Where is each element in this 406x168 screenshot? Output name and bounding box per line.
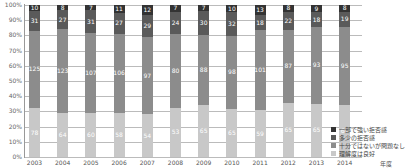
bar-segment: 123 [57,29,68,113]
bar-segment: 8 [57,5,68,10]
data-label: 98 [223,69,240,75]
bar-segment: 58 [114,113,125,157]
bar-segment: 98 [226,36,237,109]
data-label: 7 [82,5,99,11]
data-label: 60 [82,132,99,138]
data-label: 10 [26,5,43,11]
bar-segment: 18 [311,12,322,27]
data-label: 88 [195,67,212,73]
legend-item: 理解度は良好 [331,149,405,157]
data-label: 32 [223,21,240,27]
data-label: 97 [139,73,156,79]
bar-segment: 7 [198,5,209,11]
bar-segment: 8 [283,5,294,12]
bar-2008: 5380247 [170,5,181,157]
x-tick-label: 2013 [305,159,329,166]
bar-segment: 106 [114,34,125,114]
data-label: 10 [223,6,240,12]
bar-segment: 65 [311,104,322,157]
bar-segment: 7 [170,5,181,11]
bar-segment: 31 [85,10,96,33]
data-label: 64 [54,132,71,138]
data-label: 78 [26,130,43,136]
bar-segment: 59 [255,110,266,157]
bar-segment: 53 [170,108,181,157]
data-label: 30 [195,20,212,26]
data-label: 123 [54,68,71,74]
bar-segment: 11 [114,5,125,13]
bar-segment: 93 [311,27,322,103]
data-label: 12 [139,7,156,13]
bar-segment: 65 [198,105,209,157]
x-tick-label: 2003 [23,159,47,166]
bar-segment: 24 [170,12,181,34]
data-label: 9 [308,6,325,12]
bar-segment: 78 [29,108,40,157]
y-tick-label: 90% [0,17,22,23]
bar-segment: 10 [226,5,237,12]
y-tick-label: 50% [0,78,22,84]
bar-2004: 64123278 [57,5,68,157]
bar-2012: 6587228 [283,5,294,157]
bar-segment: 87 [283,30,294,103]
bar-segment: 65 [226,109,237,157]
data-label: 107 [82,70,99,76]
data-label: 95 [336,63,353,69]
bar-segment: 27 [114,13,125,33]
x-tick-label: 2014 [333,159,357,166]
bar-segment: 65 [283,103,294,157]
bar-segment: 97 [142,37,153,114]
legend-swatch [331,127,336,132]
data-label: 18 [308,17,325,23]
bar-segment: 101 [255,30,266,110]
data-label: 125 [26,66,43,72]
legend-swatch [331,151,336,156]
data-label: 18 [252,20,269,26]
legend-label: 理解度は良好 [339,149,375,158]
data-label: 7 [167,5,184,11]
data-label: 8 [336,5,353,11]
data-label: 65 [223,130,240,136]
bar-segment: 125 [29,31,40,109]
y-tick-label: 20% [0,124,22,130]
bar-2007: 54972912 [142,5,153,157]
data-label: 8 [280,5,297,11]
data-label: 65 [195,128,212,134]
x-tick-label: 2009 [192,159,216,166]
bar-segment: 7 [85,5,96,10]
data-label: 19 [336,16,353,22]
legend-swatch [331,143,336,148]
x-tick-label: 2010 [220,159,244,166]
y-tick-label: 10% [0,139,22,145]
bar-segment: 12 [142,5,153,15]
gridline [24,157,362,158]
data-label: 59 [252,131,269,137]
bar-segment: 32 [226,12,237,36]
bar-segment: 8 [339,5,350,12]
data-label: 11 [111,6,128,12]
bar-segment: 10 [29,5,40,11]
y-tick-label: 60% [0,63,22,69]
data-label: 24 [167,20,184,26]
bar-segment: 9 [311,5,322,12]
bar-2010: 65983210 [226,5,237,157]
data-label: 54 [139,133,156,139]
data-label: 80 [167,68,184,74]
legend: 一部で強い拒否感 多少の拒否感 十分ではないが問題なし 理解度は良好 [331,125,405,157]
bar-segment: 29 [142,15,153,38]
bar-segment: 64 [57,113,68,157]
y-tick-label: 40% [0,93,22,99]
legend-swatch [331,135,336,140]
bar-segment: 54 [142,114,153,157]
data-label: 65 [280,127,297,133]
bar-segment: 31 [29,11,40,30]
x-tick-label: 2006 [107,159,131,166]
bar-segment: 22 [283,12,294,30]
data-label: 87 [280,63,297,69]
bar-segment: 60 [85,113,96,157]
bar-segment: 88 [198,35,209,105]
data-label: 27 [54,17,71,23]
x-tick-label: 2005 [79,159,103,166]
bar-2003: 781253110 [29,5,40,157]
y-tick-label: 80% [0,32,22,38]
